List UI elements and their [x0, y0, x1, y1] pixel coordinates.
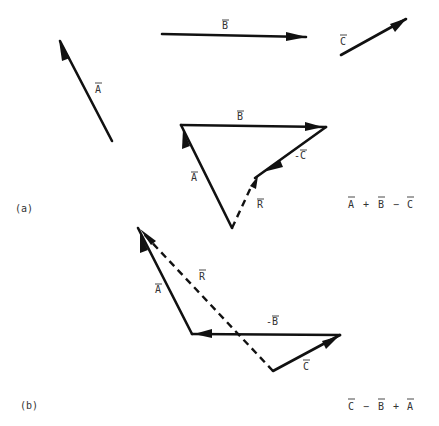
part-b-resultant-r: [143, 233, 273, 371]
part-b-label-c: C: [303, 361, 309, 372]
svg-text:+: +: [363, 199, 369, 210]
svg-text:C: C: [348, 401, 354, 412]
svg-text:C: C: [407, 199, 413, 210]
svg-text:B: B: [378, 401, 384, 412]
arrowhead-icon: [263, 160, 283, 172]
arrowhead-icon: [322, 336, 339, 349]
vector-diagram: A B C B A -C R (a) A + B: [0, 0, 439, 426]
vector-b-label: B: [222, 20, 228, 31]
part-b-label-a: A: [155, 284, 161, 295]
part-a-expression: A + B − C: [348, 197, 414, 210]
part-b-diagram: R A -B C (b) C − B + A: [20, 228, 414, 412]
svg-text:−: −: [393, 199, 399, 210]
part-b-vector-neg-b: [192, 334, 340, 335]
vector-c-label: C: [340, 36, 346, 47]
svg-text:+: +: [393, 401, 399, 412]
part-a-label-a: A: [191, 172, 197, 183]
part-a-label-r: R: [257, 199, 264, 210]
part-a-tag: (a): [15, 203, 33, 214]
part-a-vector-b: [181, 125, 326, 127]
part-a-diagram: B A -C R (a) A + B − C: [15, 111, 414, 228]
arrowhead-icon: [59, 40, 70, 61]
part-b-vector-a: [138, 228, 192, 334]
arrowhead-icon: [390, 18, 407, 32]
part-b-label-r: R: [199, 271, 206, 282]
part-b-expression: C − B + A: [348, 399, 414, 412]
svg-text:A: A: [407, 401, 413, 412]
arrowhead-icon: [286, 32, 307, 41]
svg-text:−: −: [363, 401, 369, 412]
part-a-vector-a: [181, 125, 232, 228]
part-b-tag: (b): [20, 400, 38, 411]
arrowhead-icon: [194, 329, 212, 338]
part-a-label-neg-c: -C: [294, 150, 306, 161]
svg-text:B: B: [378, 199, 384, 210]
vector-b-arrow: [162, 34, 306, 37]
part-b-label-neg-b: -B: [266, 316, 278, 327]
vector-a-label: A: [95, 84, 101, 95]
part-a-resultant-r: [232, 185, 252, 228]
svg-text:A: A: [348, 199, 354, 210]
given-vectors: A B C: [59, 18, 407, 141]
part-a-label-b: B: [237, 111, 243, 122]
